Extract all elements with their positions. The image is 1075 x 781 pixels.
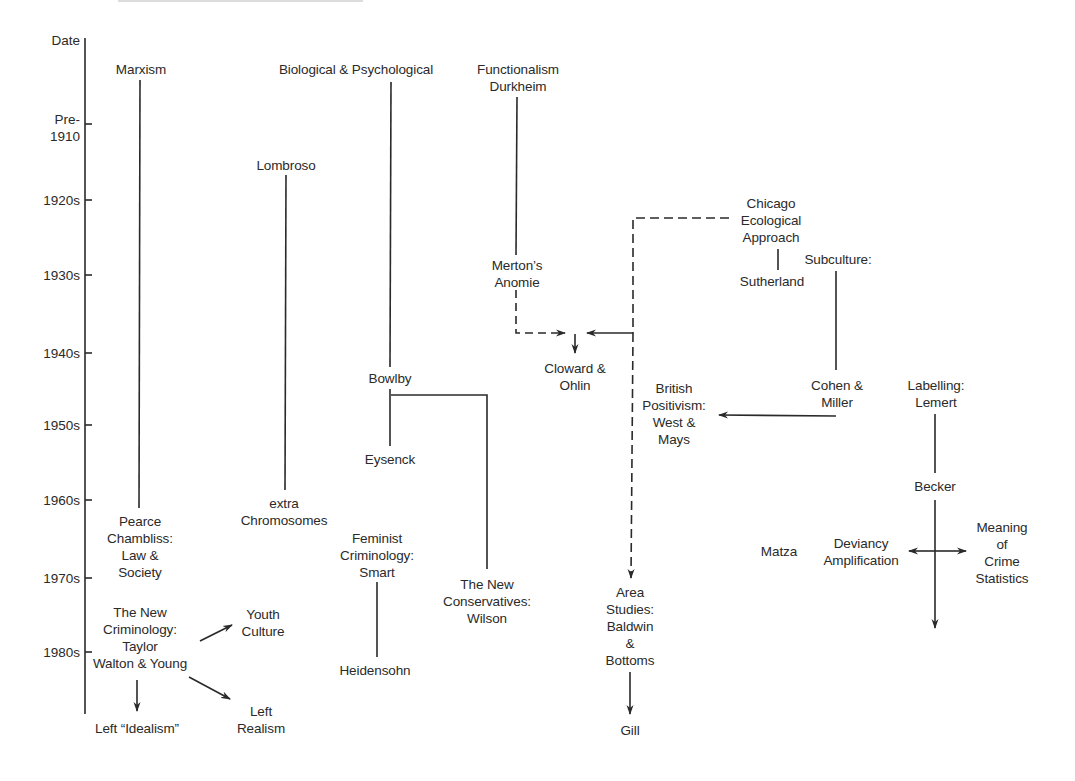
node-bowlby: Bowlby — [369, 370, 412, 387]
node-deviancy-amplification: Deviancy Amplification — [823, 535, 898, 569]
node-subculture: Subculture: — [804, 251, 871, 268]
axis-tick-1980s: 1980s — [0, 644, 80, 661]
axis-tick-1940s: 1940s — [0, 345, 80, 362]
node-matza: Matza — [761, 543, 797, 560]
node-gill: Gill — [620, 722, 639, 739]
node-extra-chromosomes: extra Chromosomes — [241, 495, 328, 529]
node-biological-psychological: Biological & Psychological — [279, 61, 433, 78]
axis-tick-1960s: 1960s — [0, 492, 80, 509]
node-new-criminology: The New Criminology: Taylor Walton & You… — [93, 604, 187, 672]
node-eysenck: Eysenck — [365, 451, 415, 468]
node-pearce-chambliss: Pearce Chambliss: Law & Society — [107, 513, 173, 581]
node-heidensohn: Heidensohn — [339, 662, 410, 679]
node-british-positivism: British Positivism: West & Mays — [642, 380, 705, 448]
node-left-idealism: Left “Idealism” — [95, 720, 179, 737]
axis-tick-1970s: 1970s — [0, 570, 80, 587]
node-left-realism: Left Realism — [237, 703, 285, 737]
axis-tick-1950s: 1950s — [0, 417, 80, 434]
axis-tick-1920s: 1920s — [0, 192, 80, 209]
node-merton-anomie: Merton’s Anomie — [492, 257, 543, 291]
node-sutherland: Sutherland — [740, 273, 804, 290]
node-marxism: Marxism — [116, 61, 166, 78]
node-chicago-ecological: Chicago Ecological Approach — [741, 195, 802, 246]
axis-tick-1930s: 1930s — [0, 267, 80, 284]
node-becker: Becker — [914, 478, 955, 495]
node-new-conservatives: The New Conservatives: Wilson — [443, 576, 531, 627]
node-labelling-lemert: Labelling: Lemert — [908, 377, 965, 411]
node-youth-culture: Youth Culture — [242, 606, 285, 640]
node-area-studies: Area Studies: Baldwin & Bottoms — [606, 584, 655, 669]
node-functionalism-durkheim: Functionalism Durkheim — [477, 61, 559, 95]
node-lombroso: Lombroso — [256, 157, 315, 174]
axis-title-date: Date — [0, 32, 80, 49]
node-cloward-ohlin: Cloward & Ohlin — [544, 360, 605, 394]
node-cohen-miller: Cohen & Miller — [811, 377, 863, 411]
node-meaning-crime-statistics: Meaning of Crime Statistics — [975, 519, 1028, 587]
axis-tick-pre-1910: Pre- 1910 — [0, 111, 80, 145]
node-feminist-criminology: Feminist Criminology: Smart — [340, 530, 414, 581]
